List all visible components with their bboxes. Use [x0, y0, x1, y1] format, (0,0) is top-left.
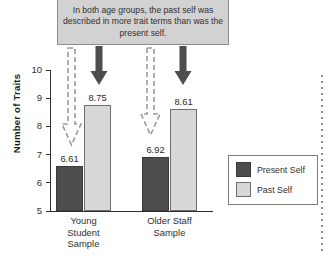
- bar-value-label: 6.61: [50, 153, 90, 164]
- legend: Present Self Past Self: [228, 155, 318, 205]
- bar-value-label: 8.61: [164, 96, 204, 107]
- y-axis-tick-label: 9: [28, 92, 42, 103]
- y-axis-tick: [46, 211, 50, 212]
- y-axis-tick-label: 7: [28, 149, 42, 160]
- solid-down-arrow-young: [89, 45, 109, 86]
- dashed-outline-down-arrow-older: [139, 46, 163, 138]
- y-axis-tick-label: 8: [28, 120, 42, 131]
- bar-value-label: 6.92: [136, 144, 176, 155]
- bar-present-self: [142, 157, 169, 211]
- legend-swatch-past-self-icon: [236, 182, 251, 197]
- dashed-outline-down-arrow-young: [60, 46, 84, 149]
- y-axis-tick-label: 5: [28, 205, 42, 216]
- y-axis-tick: [46, 126, 50, 127]
- x-axis-category-label: YoungStudentSample: [44, 215, 124, 250]
- solid-down-arrow-older: [173, 45, 193, 86]
- y-axis-tick: [46, 98, 50, 99]
- y-axis-title: Number of Traits: [11, 59, 22, 169]
- y-axis-tick-label: 6: [28, 177, 42, 188]
- y-axis-tick: [46, 182, 50, 183]
- legend-label-present-self: Present Self: [257, 165, 305, 175]
- chart-figure: In both age groups, the past self was de…: [0, 0, 328, 263]
- x-axis-category-label: Older StaffSample: [130, 215, 210, 238]
- legend-label-past-self: Past Self: [257, 185, 292, 195]
- bar-past-self: [170, 109, 197, 211]
- legend-item-present-self: Present Self: [236, 162, 317, 177]
- y-axis-line: [50, 70, 51, 212]
- bar-present-self: [56, 166, 83, 211]
- legend-item-past-self: Past Self: [236, 182, 317, 197]
- legend-swatch-present-self-icon: [236, 162, 251, 177]
- x-axis-line: [50, 211, 213, 212]
- vertical-dotted-rule: [321, 75, 323, 255]
- y-axis-tick-label: 10: [28, 64, 42, 75]
- y-axis-tick: [46, 70, 50, 71]
- plot-area: Number of Traits 5678910 6.616.928.758.6…: [0, 0, 328, 263]
